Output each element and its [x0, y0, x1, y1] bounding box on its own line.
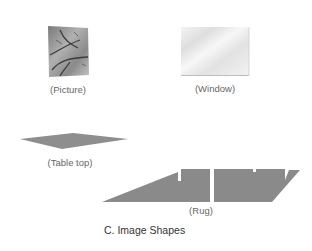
window-shape: [181, 27, 249, 76]
picture-label: (Picture): [50, 84, 86, 95]
image-shapes-diagram: [0, 0, 312, 251]
rug-shape: [102, 169, 300, 202]
figure-caption: C. Image Shapes: [104, 224, 185, 236]
table-top-shape: [20, 133, 128, 149]
picture-shape: [48, 26, 89, 77]
rug-label: (Rug): [189, 205, 213, 216]
window-label: (Window): [195, 83, 235, 94]
table-top-label: (Table top): [48, 157, 93, 168]
